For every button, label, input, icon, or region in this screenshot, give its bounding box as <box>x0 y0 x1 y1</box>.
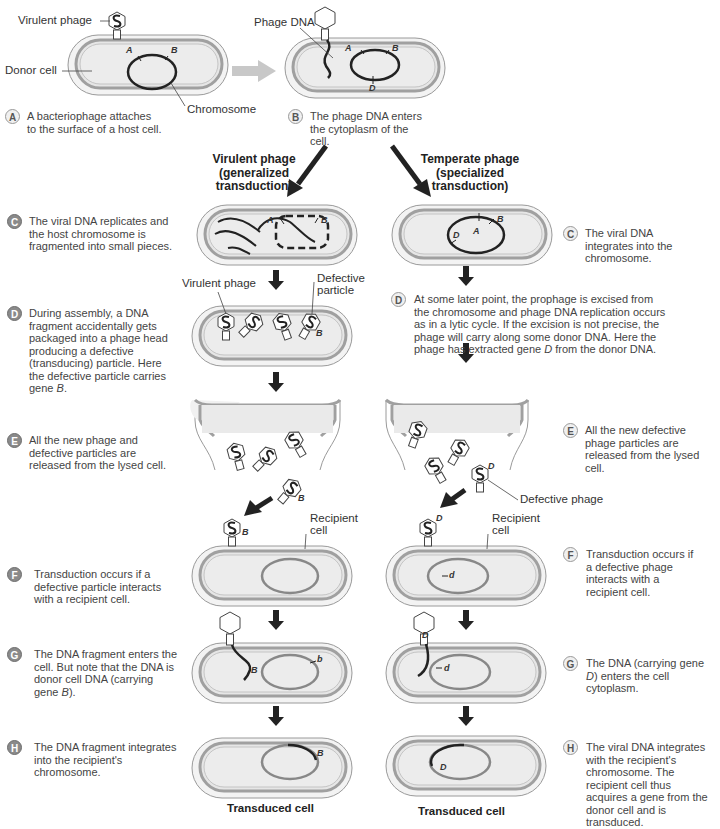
branch-header-virulent: Virulent phage (generalized transduction… <box>204 153 304 194</box>
virulent-step-f-text: Transduction occurs if a defective parti… <box>34 568 174 606</box>
step-badge-virulent-g: G <box>7 647 22 662</box>
light-arrow-right-icon <box>232 60 276 82</box>
label-virulent-phage-d: Virulent phage <box>182 277 256 289</box>
step-badge-a: A <box>5 109 20 124</box>
gene-label: b <box>317 654 323 664</box>
step-badge-temperate-h: H <box>563 740 578 755</box>
step-badge-virulent-d: D <box>7 306 22 321</box>
temperate-step-d-text: At some later point, the prophage is exc… <box>414 293 669 356</box>
label-defective-phage: Defective phage <box>520 493 603 505</box>
temperate-step-g-text: The DNA (carrying gene D) enters the cel… <box>586 657 706 695</box>
step-badge-temperate-g: G <box>563 656 578 671</box>
step-badge-virulent-e: E <box>7 433 22 448</box>
step-badge-virulent-h: H <box>7 740 22 755</box>
label-virulent-phage: Virulent phage <box>18 14 92 26</box>
step-badge-virulent-c: C <box>7 214 22 229</box>
caption-transduced-cell-right: Transduced cell <box>418 805 505 817</box>
recipient-cell-f-right <box>386 546 546 606</box>
gene-label: D <box>440 762 447 772</box>
step-badge-virulent-f: F <box>7 567 22 582</box>
gene-label: A <box>126 45 133 55</box>
gene-label: D <box>369 83 376 93</box>
defective-particle-attached <box>224 519 240 546</box>
phage-head-g-right <box>414 612 434 645</box>
gene-label: B <box>316 328 323 338</box>
recipient-cell-g-right <box>386 643 546 703</box>
gene-label: B <box>251 665 258 675</box>
gene-label: D <box>453 230 460 240</box>
label-phage-dna: Phage DNA <box>254 16 315 28</box>
arrow-to-recipient-icon <box>244 498 272 516</box>
caption-transduced-cell-left: Transduced cell <box>227 802 314 814</box>
temperate-step-f-text: Transduction occurs if a defective phage… <box>586 548 701 598</box>
temperate-step-e-text: All the new defective phage particles ar… <box>585 424 705 474</box>
arrow-down-icon <box>458 610 474 630</box>
gene-label: B <box>392 43 399 53</box>
gene-label: d <box>444 663 450 673</box>
gene-label: B <box>298 493 305 503</box>
virulent-step-g-text: The DNA fragment enters the cell. But no… <box>34 648 180 698</box>
donor-cell-a <box>68 35 228 95</box>
virulent-step-e-text: All the new phage and defective particle… <box>29 434 179 472</box>
arrow-down-icon <box>268 610 284 630</box>
virulent-cell-d <box>192 306 352 366</box>
branch-header-temperate: Temperate phage (specialized transductio… <box>415 153 525 194</box>
label-recipient-cell-right: Recipientcell <box>492 512 540 536</box>
defective-phage <box>472 465 488 492</box>
arrow-down-icon <box>458 706 474 726</box>
label-donor-cell: Donor cell <box>5 64 57 76</box>
virulent-step-c-text: The viral DNA replicates and the host ch… <box>29 215 179 253</box>
label-defective-particle: Defectiveparticle <box>317 272 365 296</box>
virulent-step-d-text: During assembly, a DNA fragment accident… <box>29 307 177 395</box>
gene-label: D <box>436 513 443 523</box>
phage-head-b <box>315 7 335 40</box>
label-chromosome: Chromosome <box>187 103 256 115</box>
gene-label: d <box>449 570 455 580</box>
arrow-down-icon <box>458 266 474 286</box>
gene-label: B <box>242 527 249 537</box>
donor-cell-b <box>285 38 445 98</box>
virulent-step-h-text: The DNA fragment integrates into the rec… <box>34 741 179 779</box>
step-badge-temperate-d: D <box>391 292 406 307</box>
recipient-cell-f-left <box>192 546 352 606</box>
arrow-down-icon <box>268 372 284 392</box>
step-badge-b: B <box>288 109 303 124</box>
gene-label: A <box>345 43 352 53</box>
arrow-to-recipient-icon <box>440 490 465 508</box>
step-badge-temperate-f: F <box>563 547 578 562</box>
temperate-step-c-text: The viral DNA integrates into the chromo… <box>585 227 695 265</box>
step-badge-temperate-c: C <box>563 226 578 241</box>
step-a-text: A bacteriophage attaches to the surface … <box>27 110 162 135</box>
phage-head-g-left <box>220 612 240 645</box>
gene-label: D <box>422 630 429 640</box>
arrow-down-icon <box>268 706 284 726</box>
gene-label: B <box>171 45 178 55</box>
gene-label: D <box>488 461 495 471</box>
step-badge-temperate-e: E <box>563 423 578 438</box>
defective-phage-attached <box>420 519 436 546</box>
gene-label: B <box>321 215 328 225</box>
temperate-cell-c <box>392 205 552 265</box>
transduced-cell-left <box>192 738 352 798</box>
gene-label: B <box>317 748 324 758</box>
gene-label: A <box>473 226 480 236</box>
label-recipient-cell-left: Recipientcell <box>310 512 358 536</box>
step-b-text: The phage DNA enters the cytoplasm of th… <box>310 110 430 148</box>
recipient-cell-g-left <box>192 643 352 703</box>
temperate-step-h-text: The viral DNA integrates with the recipi… <box>586 741 711 829</box>
gene-label: B <box>497 214 504 224</box>
gene-label: A <box>267 215 274 225</box>
arrow-down-icon <box>268 270 284 290</box>
